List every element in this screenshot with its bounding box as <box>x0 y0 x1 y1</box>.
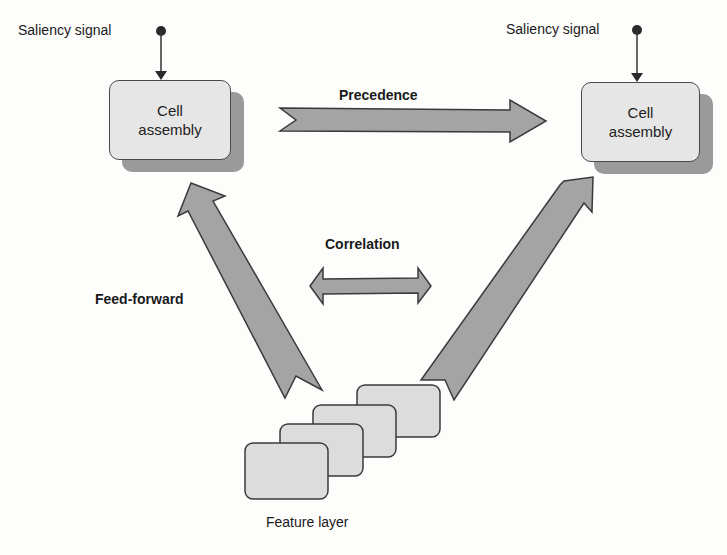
cell-assembly-right: Cell assembly <box>581 82 700 162</box>
precedence-arrow <box>280 100 546 142</box>
cell-left-line2: assembly <box>138 120 201 139</box>
precedence-label: Precedence <box>339 87 418 103</box>
saliency-signal-right-label: Saliency signal <box>506 21 599 37</box>
cell-right-line2: assembly <box>609 122 672 141</box>
saliency-signal-left-label: Saliency signal <box>18 22 111 38</box>
correlation-label: Correlation <box>325 236 400 252</box>
saliency-left-connector <box>155 26 167 80</box>
feed-forward-label: Feed-forward <box>95 291 184 307</box>
cell-left-line1: Cell <box>157 101 183 120</box>
feature-layer-stack <box>245 385 440 499</box>
saliency-right-connector <box>631 25 643 82</box>
diagram-canvas: Cell assembly Cell assembly Saliency sig… <box>0 0 727 555</box>
feature-layer-label: Feature layer <box>266 514 348 530</box>
correlation-arrow <box>310 268 431 304</box>
feed-forward-arrow <box>178 183 322 398</box>
feature-layer-card-1 <box>245 443 328 499</box>
feature-to-cell-arrow <box>421 177 593 400</box>
cell-right-line1: Cell <box>628 103 654 122</box>
cell-assembly-left: Cell assembly <box>109 80 231 160</box>
